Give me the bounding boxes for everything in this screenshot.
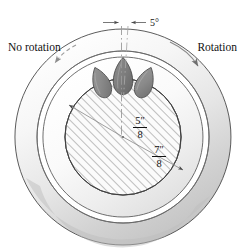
inner-radius-numerator: 5″ — [135, 115, 145, 126]
no-rotation-label: No rotation — [8, 41, 61, 53]
outer-radius-denominator: 8 — [156, 158, 161, 169]
rotation-label: Rotation — [197, 41, 237, 53]
angle-label: 5° — [150, 17, 159, 28]
angle-dimension: 5° — [103, 17, 159, 28]
figure-canvas: 5° No rotation Rotation 5″ 8 7″ 8 — [0, 0, 245, 249]
outer-radius-numerator: 7″ — [154, 144, 164, 155]
inner-radius-denominator: 8 — [137, 129, 142, 140]
